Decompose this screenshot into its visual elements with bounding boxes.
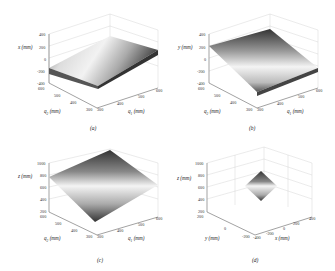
z-tick: 400	[40, 197, 46, 202]
q1-axis-label: q1 (mm)	[128, 235, 145, 243]
caption-b: (b)	[249, 125, 255, 131]
z-tick: 400	[39, 32, 45, 37]
z-axis-label: z (mm)	[177, 175, 191, 181]
q2-axis-label: q2 (mm)	[204, 108, 221, 116]
q1-tick: 400	[117, 101, 123, 106]
z-tick: 0	[204, 57, 206, 62]
z-tick: -200	[37, 69, 45, 74]
y-tick: 0	[224, 226, 226, 231]
q1-tick: 500	[138, 222, 144, 227]
z-tick: -200	[197, 69, 205, 74]
q1-tick: 400	[277, 101, 283, 106]
surface-plot-c	[0, 135, 167, 271]
q1-tick: 300	[97, 234, 103, 239]
q1-axis-label: q1 (mm)	[287, 108, 304, 116]
y-axis-label: y (mm)	[205, 235, 220, 241]
z-tick: 1000	[195, 161, 203, 166]
x-tick: 0	[283, 226, 285, 231]
z-tick: 600	[40, 185, 46, 190]
q2-tick: 400	[71, 228, 77, 233]
q2-tick: 300	[86, 234, 92, 239]
q1-tick: 600	[156, 216, 162, 221]
q2-tick: 500	[54, 93, 60, 98]
z-tick: 200	[39, 45, 45, 50]
caption-c: (c)	[97, 257, 103, 263]
q2-tick: 500	[55, 221, 61, 226]
panel-c: 1000 800 600 400 200 z (mm) 600 500 400 …	[0, 135, 167, 270]
q2-tick: 600	[38, 86, 44, 91]
q2-tick: 600	[198, 86, 204, 91]
q1-tick: 500	[138, 94, 144, 99]
q1-axis-label: q1 (mm)	[128, 108, 145, 116]
y-tick: -200	[242, 234, 250, 239]
z-tick: 400	[199, 32, 205, 37]
x-axis-label: x (mm)	[275, 235, 290, 241]
z-tick: 1000	[37, 161, 45, 166]
panel-a: 400 200 0 -200 -400 x (mm) 600 500 400 3…	[0, 0, 167, 135]
surface-plot-b	[167, 0, 334, 135]
z-tick: 400	[198, 197, 204, 202]
q2-tick: 300	[246, 107, 252, 112]
q1-tick: 500	[298, 94, 304, 99]
z-tick: 600	[198, 185, 204, 190]
q2-tick: 600	[40, 214, 46, 219]
y-tick: 200	[197, 214, 203, 219]
caption-d: (d)	[252, 257, 258, 263]
q1-tick: 300	[257, 107, 263, 112]
z-axis-label: z (mm)	[18, 173, 32, 179]
z-axis-label: y (mm)	[178, 44, 193, 50]
q1-tick: 400	[117, 228, 123, 233]
z-tick: 200	[199, 45, 205, 50]
z-tick: 800	[198, 173, 204, 178]
q2-tick: 400	[230, 100, 236, 105]
q2-tick: 300	[86, 107, 92, 112]
z-axis-label: x (mm)	[18, 44, 33, 50]
z-tick: 800	[40, 173, 46, 178]
z-tick: 0	[44, 57, 46, 62]
workspace-plot-d	[167, 135, 334, 271]
q1-tick: 300	[97, 107, 103, 112]
x-tick: -400	[253, 235, 261, 240]
q1-tick: 600	[156, 88, 162, 93]
panel-b: 400 200 0 -200 -400 y (mm) 600 500 400 3…	[167, 0, 334, 135]
q2-tick: 400	[70, 100, 76, 105]
x-tick: 200	[293, 221, 299, 226]
q2-axis-label: q2 (mm)	[44, 108, 61, 116]
x-tick: 400	[309, 216, 315, 221]
q1-tick: 600	[316, 88, 322, 93]
x-tick: -200	[266, 231, 274, 236]
caption-a: (a)	[90, 125, 96, 131]
q2-axis-label: q2 (mm)	[44, 235, 61, 243]
panel-d: 1000 800 600 400 200 z (mm) 200 0 -200 -…	[167, 135, 334, 270]
q2-tick: 500	[214, 93, 220, 98]
